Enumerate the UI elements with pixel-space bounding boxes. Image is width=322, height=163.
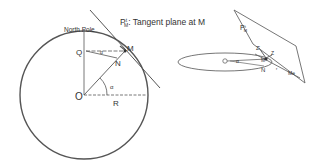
point-n-label-3d: N (261, 67, 265, 73)
point-o-label: O (75, 91, 83, 102)
point-q-label: Q (76, 48, 82, 57)
z-label: Z (271, 50, 274, 56)
point-m-label-3d: M (261, 57, 265, 63)
plane-label: PtM (240, 24, 247, 33)
north-pole-label: North Pole (64, 26, 95, 33)
point-n-label: N (115, 59, 121, 68)
me-label: Me (288, 70, 295, 76)
alpha-label: α (110, 84, 114, 90)
q-point-3d (223, 59, 227, 63)
point-m-label: M (127, 44, 134, 53)
alpha-label-3d: α (236, 58, 239, 64)
diagram-canvas: PtM: Tangent plane at M North Pole M N Q… (0, 0, 322, 163)
tangent-plane-title: PtM: Tangent plane at M (120, 17, 205, 28)
om-line (84, 51, 125, 95)
radius-label: R (113, 99, 119, 108)
small-alpha-label: α (100, 49, 103, 55)
z-prime-label: Z' (256, 45, 260, 51)
r-label: r (276, 66, 278, 71)
alpha-arc (100, 78, 107, 95)
